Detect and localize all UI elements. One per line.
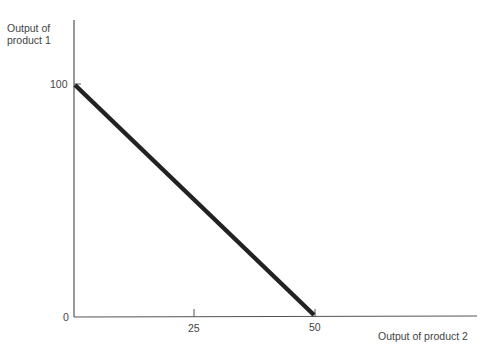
- x-axis-label: Output of product 2: [378, 330, 468, 342]
- y-tick-label-0: 0: [63, 311, 69, 323]
- x-axis: [74, 316, 477, 317]
- x-tick-label-50: 50: [309, 321, 321, 333]
- y-tick-label-100: 100: [50, 78, 68, 90]
- x-tick-label-25: 25: [188, 322, 200, 334]
- frontier-line: [75, 85, 314, 315]
- chart-plot: [0, 0, 495, 364]
